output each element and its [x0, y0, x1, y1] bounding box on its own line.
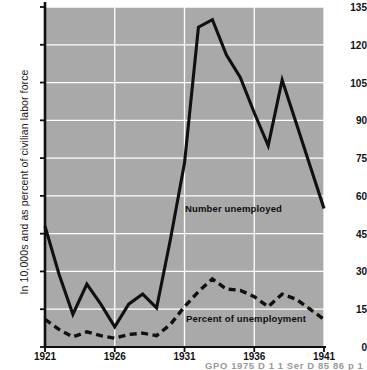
y-tick-label: 135 — [333, 2, 367, 13]
source-footnote: GPO 1975 D 1 1 Ser D 85 86 p 1 — [205, 360, 363, 370]
y-axis: In 10,000s and as percent of civilian la… — [0, 0, 40, 370]
x-tick-label: 1931 — [173, 351, 195, 362]
y-tick-label: 75 — [333, 153, 367, 164]
y-tick-label: 105 — [333, 77, 367, 88]
y-tick-label: 90 — [333, 115, 367, 126]
y-tick-label: 15 — [333, 304, 367, 315]
y-axis-title: In 10,000s and as percent of civilian la… — [18, 17, 30, 347]
y-tick-label: 0 — [333, 342, 367, 353]
y-tick-label: 60 — [333, 190, 367, 201]
x-tick-label: 1926 — [104, 351, 126, 362]
y-tick-label: 45 — [333, 228, 367, 239]
y-tick-label: 120 — [333, 39, 367, 50]
plot-area — [0, 0, 367, 370]
x-tick-label: 1921 — [34, 351, 56, 362]
unemployment-line-chart: In 10,000s and as percent of civilian la… — [0, 0, 367, 370]
series-label-number-unemployed: Number unemployed — [185, 203, 282, 214]
series-label-percent-unemployment: Percent of unemployment — [186, 313, 306, 324]
y-tick-label: 30 — [333, 266, 367, 277]
